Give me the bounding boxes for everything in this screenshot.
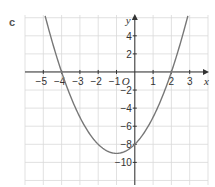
x-axis-label: x [203, 75, 209, 87]
y-tick-label: 2 [126, 49, 132, 60]
y-axis-arrow-icon [132, 14, 138, 20]
x-tick-label: −1 [109, 76, 121, 87]
origin-label: O [122, 75, 130, 87]
x-tick-label: 3 [187, 76, 193, 87]
y-axis-label: y [125, 14, 131, 26]
x-tick-label: −5 [36, 76, 48, 87]
y-tick-label: −10 [115, 157, 132, 168]
x-tick-label: −3 [72, 76, 84, 87]
x-tick-label: 1 [150, 76, 156, 87]
y-tick-label: −4 [120, 103, 132, 114]
y-tick-label: 4 [126, 31, 132, 42]
x-tick-label: −2 [90, 76, 102, 87]
y-tick-label: −6 [120, 121, 132, 132]
parabola-chart: −5−4−3−2−112342−2−4−6−8−10Oxy [0, 0, 215, 187]
